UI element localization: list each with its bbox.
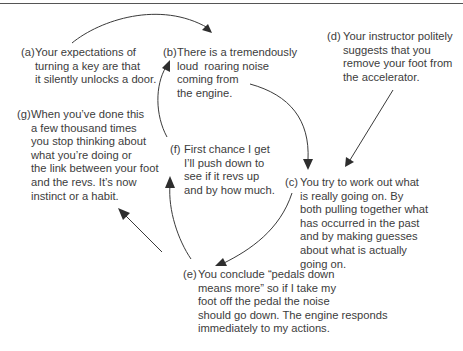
node-g-text: When you’ve done this a few thousand tim… [31,108,159,203]
node-a-label: (a) [21,46,35,60]
arrow-e-to-g [125,215,162,252]
node-f-text: First chance I get I’ll push down to see… [184,143,275,197]
node-d-text: Your instructor politely suggests that y… [343,30,453,84]
node-a-text: Your expectations of turning a key are t… [35,46,156,87]
node-f: (f) First chance I get I’ll push down to… [170,143,275,197]
node-d: (d) Your instructor politely suggests th… [327,30,453,84]
arrow-a-to-b [72,14,208,43]
node-e: (e) You conclude “pedals down means more… [183,268,388,336]
node-b-text: There is a tremendously loud roaring noi… [177,46,297,100]
node-g: (g) When you’ve done this a few thousand… [17,108,159,203]
node-a: (a) Your expectations of turning a key a… [21,46,156,87]
arrowhead-b-to-c [303,159,313,170]
node-b-label: (b) [163,46,177,60]
node-c-text: You try to work out what is really going… [300,176,428,271]
node-e-text: You conclude “pedals down means more” so… [198,268,388,336]
node-e-label: (e) [183,268,197,282]
arrow-d-to-c [350,90,393,160]
arrow-c-to-e [224,193,292,263]
node-c-label: (c) [285,176,298,190]
node-b: (b) There is a tremendously loud roaring… [163,46,297,100]
node-d-label: (d) [327,30,341,44]
arrowhead-d-to-c [345,157,354,167]
node-f-label: (f) [170,143,181,157]
node-g-label: (g) [17,108,31,122]
node-c: (c) You try to work out what is really g… [285,176,428,271]
